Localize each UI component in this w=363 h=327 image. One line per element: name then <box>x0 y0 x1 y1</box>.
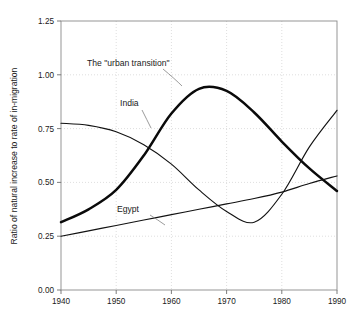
y-tick-label: 1.25 <box>38 17 54 26</box>
y-tick-label: 0.50 <box>38 178 54 187</box>
x-tick-label: 1970 <box>217 297 236 306</box>
x-tick-label: 1990 <box>328 297 347 306</box>
chart-figure: 0.000.250.500.751.001.25 194019501960197… <box>0 0 363 327</box>
annotation-urban-transition: The "urban transition" <box>87 58 170 68</box>
y-axis-title: Ratio of natural increase to rate of in-… <box>9 67 19 244</box>
y-tick-label: 0.25 <box>38 232 54 241</box>
annotation-india: India <box>120 98 139 108</box>
x-tick-label: 1940 <box>52 297 71 306</box>
x-tick-label: 1950 <box>107 297 126 306</box>
annotation-egypt: Egypt <box>117 204 140 214</box>
y-tick-label: 0.75 <box>38 125 54 134</box>
y-tick-label: 1.00 <box>38 71 54 80</box>
y-tick-label: 0.00 <box>38 286 54 295</box>
chart-background <box>0 0 363 327</box>
x-tick-label: 1960 <box>162 297 181 306</box>
line-chart: 0.000.250.500.751.001.25 194019501960197… <box>0 0 363 327</box>
x-tick-label: 1980 <box>273 297 292 306</box>
